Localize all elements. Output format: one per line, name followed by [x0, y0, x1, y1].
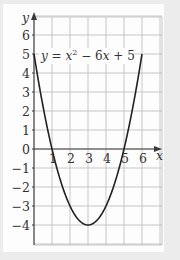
y-tick-label: 1	[22, 123, 30, 138]
x-tick-label: 2	[67, 151, 75, 166]
eq-plus-5: + 5	[109, 49, 134, 63]
x-axis-label: x	[156, 148, 163, 163]
eq-equals: =	[48, 49, 66, 63]
eq-minus-6: − 6	[77, 49, 102, 63]
x-tick-label: 3	[85, 151, 93, 166]
y-tick-label: −4	[12, 218, 30, 233]
x-tick-label: 6	[139, 151, 147, 166]
y-axis-label: y	[21, 10, 30, 25]
y-tick-label: 6	[22, 28, 30, 43]
y-tick-label: 2	[22, 104, 30, 119]
y-tick-label: −1	[12, 161, 30, 176]
x-tick-label: 4	[103, 151, 111, 166]
y-tick-label: 4	[22, 66, 30, 81]
equation-label: y = x2 − 6x + 5	[40, 48, 135, 63]
y-tick-label: −2	[12, 180, 30, 195]
parabola-chart: 1234566543210−1−2−3−4 y = x2 − 6x + 5 y …	[0, 0, 180, 260]
y-tick-label: 5	[22, 47, 30, 62]
y-tick-label: 3	[22, 85, 30, 100]
y-tick-label: 0	[22, 142, 30, 157]
y-tick-label: −3	[12, 199, 30, 214]
